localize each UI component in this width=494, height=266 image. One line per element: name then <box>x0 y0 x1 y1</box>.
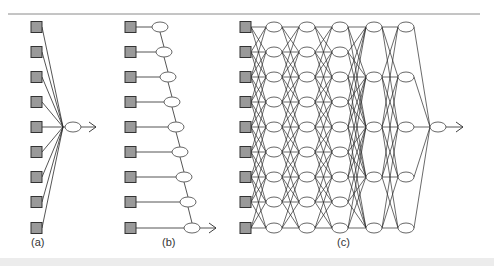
neural-network-diagram: (a) (b) (c) <box>0 0 494 266</box>
neuron-node <box>366 223 382 233</box>
connection-line <box>42 127 63 202</box>
connection-line <box>160 32 164 47</box>
input-unit-square <box>125 223 136 234</box>
neuron-node <box>160 72 176 82</box>
diagram-canvas <box>0 0 494 266</box>
neuron-node <box>266 72 282 82</box>
neuron-node <box>398 22 414 32</box>
input-unit-square <box>125 172 136 183</box>
neuron-node <box>299 47 315 57</box>
panel-label-a: (a) <box>31 236 44 248</box>
input-unit-square <box>31 147 42 158</box>
neuron-node <box>65 122 81 132</box>
neuron-node <box>398 223 414 233</box>
neuron-node <box>332 22 348 32</box>
neuron-node <box>266 172 282 182</box>
neuron-node <box>398 172 414 182</box>
neuron-node <box>266 47 282 57</box>
neuron-node <box>299 147 315 157</box>
connection-line <box>42 27 63 127</box>
neuron-node <box>266 147 282 157</box>
neuron-node <box>266 97 282 107</box>
input-unit-square <box>240 223 251 234</box>
bottom-band <box>0 258 494 266</box>
neuron-node <box>172 147 188 157</box>
input-unit-square <box>240 147 251 158</box>
neuron-node <box>332 223 348 233</box>
neuron-node <box>266 223 282 233</box>
input-unit-square <box>125 147 136 158</box>
connection-line <box>414 127 430 177</box>
neuron-node <box>366 22 382 32</box>
neuron-node <box>332 47 348 57</box>
neuron-node <box>266 197 282 207</box>
neuron-node <box>332 172 348 182</box>
neuron-node <box>299 22 315 32</box>
neuron-node <box>299 97 315 107</box>
input-unit-square <box>240 47 251 58</box>
neuron-node <box>332 197 348 207</box>
connection-line <box>188 207 192 223</box>
connection-line <box>184 182 188 197</box>
nodes <box>31 22 446 234</box>
neuron-node <box>430 122 446 132</box>
connection-line <box>164 57 168 72</box>
input-unit-square <box>31 22 42 33</box>
neuron-node <box>299 197 315 207</box>
input-unit-square <box>240 122 251 133</box>
connection-line <box>42 52 63 127</box>
input-unit-square <box>31 197 42 208</box>
input-unit-square <box>240 197 251 208</box>
connection-line <box>414 77 430 127</box>
connection-line <box>172 107 176 122</box>
connection-line <box>176 132 180 147</box>
neuron-node <box>299 122 315 132</box>
neuron-node <box>299 72 315 82</box>
neuron-node <box>332 97 348 107</box>
input-unit-square <box>240 72 251 83</box>
input-unit-square <box>31 47 42 58</box>
neuron-node <box>332 147 348 157</box>
input-unit-square <box>31 97 42 108</box>
neuron-node <box>398 72 414 82</box>
connection-line <box>414 27 430 127</box>
neuron-node <box>398 122 414 132</box>
neuron-node <box>176 172 192 182</box>
connection-line <box>42 127 63 177</box>
connection-line <box>42 127 63 228</box>
neuron-node <box>164 97 180 107</box>
input-unit-square <box>240 172 251 183</box>
connection-line <box>168 82 172 97</box>
neuron-node <box>168 122 184 132</box>
input-unit-square <box>125 97 136 108</box>
neuron-node <box>366 122 382 132</box>
neuron-node <box>299 223 315 233</box>
neuron-node <box>299 172 315 182</box>
neuron-node <box>180 197 196 207</box>
input-unit-square <box>125 122 136 133</box>
neuron-node <box>366 172 382 182</box>
input-unit-square <box>31 122 42 133</box>
input-unit-square <box>31 172 42 183</box>
neuron-node <box>156 47 172 57</box>
neuron-node <box>266 22 282 32</box>
neuron-node <box>266 122 282 132</box>
panel-label-c: (c) <box>337 236 350 248</box>
input-unit-square <box>31 223 42 234</box>
panel-label-b: (b) <box>162 236 175 248</box>
neuron-node <box>332 72 348 82</box>
neuron-node <box>332 122 348 132</box>
input-unit-square <box>125 72 136 83</box>
connection-line <box>414 127 430 228</box>
connection-line <box>348 202 366 228</box>
connection-line <box>42 77 63 127</box>
input-unit-square <box>240 22 251 33</box>
input-unit-square <box>31 72 42 83</box>
neuron-node <box>184 223 200 233</box>
input-unit-square <box>240 97 251 108</box>
neuron-node <box>152 22 168 32</box>
input-unit-square <box>125 22 136 33</box>
input-unit-square <box>125 197 136 208</box>
neuron-node <box>366 72 382 82</box>
input-unit-square <box>125 47 136 58</box>
